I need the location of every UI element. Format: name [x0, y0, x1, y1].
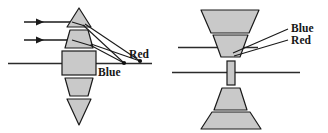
right-segment-1-wide-top	[201, 10, 259, 33]
left-segment-4-prism	[65, 78, 93, 96]
left-incident-ray-middle	[24, 37, 72, 44]
optics-figure: Red Blue Blu	[0, 0, 328, 133]
left-label-blue: Blue	[98, 66, 121, 78]
left-incident-ray-top	[24, 19, 72, 26]
right-segment-5-wide-bottom	[201, 112, 261, 129]
left-segment-5-prism-bottom	[67, 99, 91, 125]
right-label-blue: Blue	[291, 22, 314, 34]
left-panel: Red Blue	[8, 8, 152, 125]
right-segment-3-center-slab	[227, 61, 235, 85]
right-segment-4-bottom	[214, 88, 247, 110]
right-panel: Blue Red	[172, 10, 314, 129]
left-blue-focus-dot	[122, 61, 126, 65]
figure-root: Red Blue Blu	[0, 0, 328, 133]
left-label-red: Red	[129, 48, 150, 60]
left-segment-3-slab	[62, 51, 96, 75]
right-label-red: Red	[291, 34, 312, 46]
